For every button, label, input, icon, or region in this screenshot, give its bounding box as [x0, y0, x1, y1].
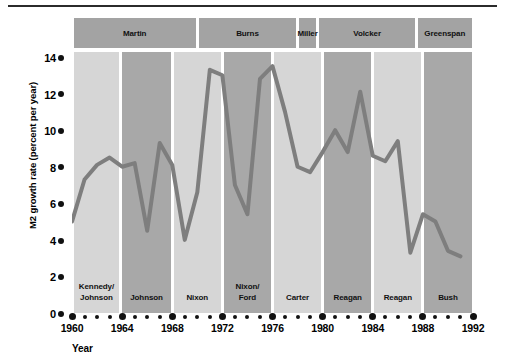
x-tick-minor-dot-icon-1983 — [358, 315, 362, 319]
y-tick-label: 2 — [50, 271, 56, 283]
y-tick-label: 14 — [44, 52, 56, 64]
x-tick-major-dot-icon-1988 — [419, 313, 426, 320]
x-tick-label-1972: 1972 — [202, 322, 242, 334]
x-tick-minor-dot-icon-1966 — [145, 315, 149, 319]
fed-chair-band-label: Burns — [236, 29, 259, 38]
x-tick-minor-dot-icon-1981 — [333, 315, 337, 319]
y-tick-6: 6 — [50, 197, 64, 209]
x-tick-major-dot-icon-1964 — [119, 313, 126, 320]
fed-chair-band-miller: Miller — [299, 18, 316, 48]
chart-figure: M2 growth rate (percent per year) 024681… — [0, 0, 505, 363]
x-tick-label-1964: 1964 — [102, 322, 142, 334]
x-tick-major-dot-icon-1976 — [269, 313, 276, 320]
y-tick-label: 6 — [50, 198, 56, 210]
president-band-label: Reagan — [384, 292, 412, 303]
fed-chair-band-label: Greenspan — [424, 29, 465, 38]
top-divider-rule — [8, 5, 497, 7]
x-tick-minor-dot-icon-1974 — [245, 315, 249, 319]
y-tick-dot-icon — [58, 164, 64, 170]
y-axis-ticks: 02468101214 — [22, 0, 64, 363]
y-tick-dot-icon — [58, 274, 64, 280]
x-tick-minor-dot-icon-1991 — [458, 315, 462, 319]
x-tick-minor-dot-icon-1973 — [233, 315, 237, 319]
x-tick-minor-dot-icon-1977 — [283, 315, 287, 319]
x-tick-minor-dot-icon-1978 — [296, 315, 300, 319]
y-tick-label: 12 — [44, 88, 56, 100]
x-tick-minor-dot-icon-1961 — [83, 315, 87, 319]
president-band-label: Kennedy/ Johnson — [79, 281, 114, 303]
president-band-0: Kennedy/ Johnson — [74, 52, 120, 313]
x-tick-label-1988: 1988 — [403, 322, 443, 334]
x-tick-minor-dot-icon-1965 — [133, 315, 137, 319]
x-tick-major-dot-icon-1992 — [470, 313, 477, 320]
x-tick-minor-dot-icon-1990 — [446, 315, 450, 319]
x-tick-minor-dot-icon-1986 — [396, 315, 400, 319]
president-band-2: Nixon — [174, 52, 221, 313]
president-band-1: Johnson — [122, 52, 170, 313]
x-tick-minor-dot-icon-1962 — [95, 315, 99, 319]
fed-chair-band-martin: Martin — [74, 18, 196, 48]
y-tick-dot-icon — [58, 55, 64, 61]
president-band-3: Nixon/ Ford — [224, 52, 271, 313]
y-tick-dot-icon — [58, 201, 64, 207]
fed-chair-band-greenspan: Greenspan — [418, 18, 471, 48]
x-tick-minor-dot-icon-1967 — [158, 315, 162, 319]
president-band-label: Reagan — [334, 292, 362, 303]
y-tick-8: 8 — [50, 161, 64, 173]
x-axis-title: Year — [72, 343, 93, 354]
y-tick-dot-icon — [58, 128, 64, 134]
x-tick-minor-dot-icon-1975 — [258, 315, 262, 319]
x-tick-label-1976: 1976 — [253, 322, 293, 334]
president-band-label: Nixon/ Ford — [236, 281, 260, 303]
y-tick-12: 12 — [44, 88, 64, 100]
y-tick-label: 4 — [50, 235, 56, 247]
x-tick-label-1980: 1980 — [303, 322, 343, 334]
x-tick-minor-dot-icon-1985 — [383, 315, 387, 319]
x-tick-label-1960: 1960 — [52, 322, 92, 334]
x-tick-major-dot-icon-1960 — [69, 313, 76, 320]
fed-chair-band-volcker: Volcker — [319, 18, 415, 48]
president-band-7: Bush — [424, 52, 471, 313]
x-tick-minor-dot-icon-1963 — [108, 315, 112, 319]
plot-area: MartinBurnsMillerVolckerGreenspan Kenned… — [72, 18, 473, 313]
x-tick-minor-dot-icon-1987 — [408, 315, 412, 319]
y-tick-dot-icon — [58, 238, 64, 244]
x-tick-major-dot-icon-1984 — [369, 313, 376, 320]
y-tick-label: 8 — [50, 161, 56, 173]
president-band-6: Reagan — [374, 52, 421, 313]
president-band-label: Bush — [438, 292, 458, 303]
x-tick-minor-dot-icon-1971 — [208, 315, 212, 319]
x-tick-major-dot-icon-1980 — [319, 313, 326, 320]
x-tick-label-1992: 1992 — [453, 322, 493, 334]
president-band-label: Nixon — [186, 292, 208, 303]
x-axis: Year 19601964196819721976198019841988199… — [0, 313, 505, 363]
x-tick-minor-dot-icon-1969 — [183, 315, 187, 319]
y-tick-4: 4 — [50, 234, 64, 246]
x-tick-label-1984: 1984 — [353, 322, 393, 334]
fed-chair-band-burns: Burns — [199, 18, 296, 48]
x-tick-major-dot-icon-1972 — [219, 313, 226, 320]
fed-chair-band-label: Martin — [123, 29, 146, 38]
president-band-label: Carter — [286, 292, 309, 303]
y-tick-10: 10 — [44, 124, 64, 136]
fed-chair-band-label: Miller — [297, 29, 317, 38]
y-tick-14: 14 — [44, 51, 64, 63]
y-tick-label: 10 — [44, 125, 56, 137]
x-tick-major-dot-icon-1968 — [169, 313, 176, 320]
president-band-5: Reagan — [324, 52, 371, 313]
president-band-4: Carter — [274, 52, 321, 313]
y-tick-dot-icon — [58, 91, 64, 97]
x-tick-minor-dot-icon-1989 — [433, 315, 437, 319]
x-tick-minor-dot-icon-1979 — [308, 315, 312, 319]
x-tick-label-1968: 1968 — [152, 322, 192, 334]
x-tick-minor-dot-icon-1982 — [346, 315, 350, 319]
president-band-label: Johnson — [130, 292, 163, 303]
y-tick-2: 2 — [50, 270, 64, 282]
fed-chair-band-label: Volcker — [353, 29, 381, 38]
x-tick-minor-dot-icon-1970 — [195, 315, 199, 319]
